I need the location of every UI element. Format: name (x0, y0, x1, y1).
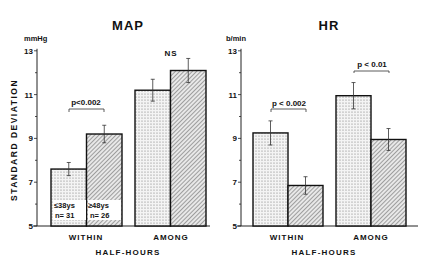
legend-old: ≥48ys n= 26 (88, 200, 121, 220)
hr-xtick-within: WITHIN (270, 233, 304, 242)
map-unit: mmHg (24, 34, 48, 43)
bar (171, 71, 207, 226)
y-tick-label: 11 (229, 91, 238, 100)
y-tick-label: 5 (29, 222, 34, 231)
map-xtick-among: AMONG (153, 233, 189, 242)
hr-xlabel: HALF-HOURS (292, 248, 357, 257)
hr-bracket-among (354, 71, 389, 73)
y-tick-label: 7 (29, 178, 34, 187)
map-bracket-within (69, 109, 104, 112)
map-xtick-within: WITHIN (69, 233, 103, 242)
y-tick-label: 5 (233, 222, 238, 231)
y-axis-label: STANDARD DEVIATION (9, 79, 19, 201)
bar (371, 139, 406, 226)
bar (135, 90, 171, 226)
figure: STANDARD DEVIATION MAP mmHg 5791113 WITH… (0, 0, 430, 266)
legend-young: ≤38ys n= 31 (53, 200, 86, 220)
map-title: MAP (112, 18, 144, 33)
hr-title: HR (319, 18, 340, 33)
svg-text:n= 31: n= 31 (55, 211, 74, 220)
svg-text:n= 26: n= 26 (90, 211, 109, 220)
hr-annot-within: p < 0.002 (272, 99, 307, 108)
bar (336, 96, 371, 226)
svg-text:≥48ys: ≥48ys (88, 201, 109, 210)
map-xlabel: HALF-HOURS (96, 248, 161, 257)
y-tick-label: 9 (29, 134, 34, 143)
bar (253, 133, 288, 226)
y-tick-label: 7 (233, 178, 238, 187)
y-tick-label: 11 (25, 91, 34, 100)
svg-text:≤38ys: ≤38ys (54, 201, 75, 210)
map-annot-within: p<0.002 (71, 98, 101, 107)
y-tick-label: 13 (24, 47, 33, 56)
map-panel: MAP mmHg 5791113 WITHIN AMONG HALF-HOURS… (24, 18, 210, 257)
map-annot-among: NS (164, 49, 177, 58)
hr-bracket-within (271, 109, 306, 112)
y-tick-label: 13 (228, 47, 237, 56)
y-tick-label: 9 (233, 134, 238, 143)
hr-xtick-among: AMONG (353, 233, 389, 242)
hr-unit: b/min (226, 34, 246, 43)
hr-annot-among: p < 0.01 (357, 60, 387, 69)
hr-panel: HR b/min 5791113 WITHIN AMONG HALF-HOURS… (226, 18, 418, 257)
